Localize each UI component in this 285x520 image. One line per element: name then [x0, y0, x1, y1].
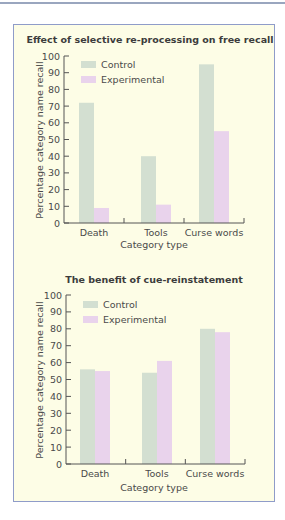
- y-tick-label: 10: [48, 201, 60, 212]
- legend-label-control: Control: [103, 299, 137, 310]
- bar-experimental-curse-words: [215, 332, 230, 464]
- bar-control-tools: [142, 373, 157, 464]
- chart-title: Effect of selective re-processing on fre…: [26, 34, 273, 45]
- bar-control-curse-words: [200, 329, 215, 464]
- bar-control-tools: [141, 156, 156, 223]
- bar-control-death: [80, 369, 95, 464]
- y-tick-label: 70: [50, 340, 62, 351]
- bar-control-death: [79, 103, 94, 223]
- chart-cue-reinstatement: The benefit of cue-reinstatement Percent…: [34, 274, 245, 493]
- x-axis-label: Category type: [120, 239, 188, 250]
- legend-label-experimental: Experimental: [101, 74, 164, 85]
- chart-selective-reprocessing: Effect of selective re-processing on fre…: [26, 34, 273, 250]
- bar-experimental-curse-words: [214, 131, 229, 223]
- y-axis-label: Percentage category name recall: [34, 61, 45, 218]
- legend-label-experimental: Experimental: [103, 314, 166, 325]
- legend: Control Experimental: [81, 59, 164, 85]
- legend-swatch-control: [81, 61, 96, 68]
- y-tick-label: 0: [54, 218, 60, 229]
- y-tick-label: 70: [48, 101, 60, 112]
- y-axis: 0102030405060708090100: [44, 290, 71, 470]
- legend: Control Experimental: [83, 299, 166, 325]
- x-tick-label: Tools: [143, 227, 167, 238]
- y-tick-label: 90: [50, 306, 62, 317]
- charts-svg: Effect of selective re-processing on fre…: [0, 0, 285, 520]
- x-tick-label: Curse words: [186, 468, 245, 479]
- x-tick-label: Death: [81, 468, 110, 479]
- y-tick-label: 90: [48, 67, 60, 78]
- legend-label-control: Control: [101, 59, 135, 70]
- y-tick-label: 10: [50, 442, 62, 453]
- legend-swatch-control: [83, 301, 98, 308]
- y-tick-label: 0: [56, 459, 62, 470]
- bar-experimental-tools: [157, 361, 172, 464]
- x-tick-label: Curse words: [185, 227, 244, 238]
- y-tick-label: 100: [42, 51, 60, 62]
- y-tick-label: 30: [48, 167, 60, 178]
- y-tick-label: 30: [50, 408, 62, 419]
- y-tick-label: 40: [48, 151, 60, 162]
- y-tick-label: 80: [48, 84, 60, 95]
- y-tick-label: 60: [48, 117, 60, 128]
- bar-experimental-death: [95, 371, 110, 464]
- chart-title: The benefit of cue-reinstatement: [65, 274, 243, 285]
- y-tick-label: 60: [50, 357, 62, 368]
- legend-swatch-experimental: [83, 316, 98, 323]
- y-axis: 0102030405060708090100: [42, 51, 69, 229]
- y-tick-label: 50: [50, 374, 62, 385]
- x-tick-label: Tools: [144, 468, 168, 479]
- legend-swatch-experimental: [81, 76, 96, 83]
- bar-experimental-death: [94, 208, 109, 223]
- y-tick-label: 80: [50, 323, 62, 334]
- y-tick-label: 50: [48, 134, 60, 145]
- bars: [79, 64, 229, 223]
- bar-control-curse-words: [199, 64, 214, 223]
- y-tick-label: 20: [48, 184, 60, 195]
- x-axis-label: Category type: [120, 482, 188, 493]
- y-tick-label: 100: [44, 290, 62, 301]
- bars: [80, 329, 230, 464]
- x-tick-label: Death: [80, 227, 109, 238]
- y-tick-label: 20: [50, 425, 62, 436]
- bar-experimental-tools: [156, 205, 171, 223]
- y-tick-label: 40: [50, 391, 62, 402]
- y-axis-label: Percentage category name recall: [34, 301, 45, 458]
